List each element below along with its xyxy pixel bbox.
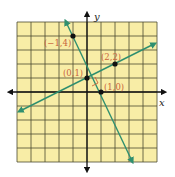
point-1-0 [98,89,103,94]
y-axis-label: y [93,11,100,22]
label-neg1-4: (−1,4) [44,38,71,48]
x-axis-label: x [159,97,165,108]
label-2-2: (2,2) [101,52,121,62]
point-0-1 [84,75,89,80]
point-2-2 [112,61,117,66]
label-1-0: (1,0) [104,82,124,92]
label-0-1: (0,1) [63,68,83,78]
coordinate-plane: x y (−1,4) (2,2) (0,1) (1,0) [0,0,175,177]
